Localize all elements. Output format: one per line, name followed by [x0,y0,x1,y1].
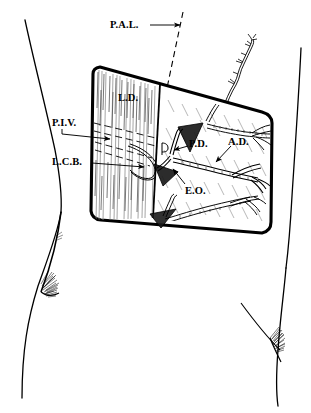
label-ad: A.D. [228,137,249,148]
label-piv: P.I.V. [52,118,76,129]
posterior-axillary-line [167,12,183,88]
thoracodorsal-pedicle-vessel [222,34,257,111]
anatomical-figure: P.A.L. L.D. P.I.V. L.C.B. P.D. A.D. E.O. [0,0,311,413]
figure-drawing [0,0,311,413]
label-eo: E.O. [185,186,206,197]
label-pd: P.D. [189,139,208,150]
label-pal: P.A.L. [110,20,139,31]
label-lcb: L.C.B. [52,157,82,168]
label-ld: L.D. [118,93,138,104]
